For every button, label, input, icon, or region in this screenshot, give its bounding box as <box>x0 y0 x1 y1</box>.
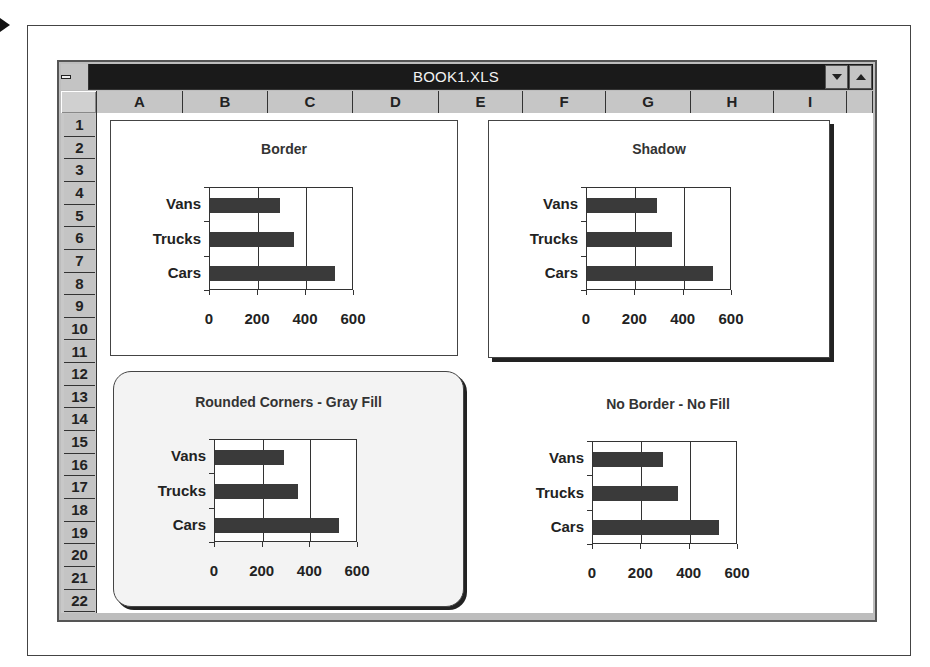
workbook-window: BOOK1.XLS ABCDEFGHI 12345678910111213141… <box>57 60 877 622</box>
bar-trucks <box>215 484 298 499</box>
column-header-c[interactable]: C <box>268 91 353 113</box>
category-label: Trucks <box>131 230 201 247</box>
x-tick-label: 400 <box>289 562 329 579</box>
bar-cars <box>215 518 339 533</box>
category-label: Trucks <box>514 484 584 501</box>
row-header-19[interactable]: 19 <box>64 522 95 545</box>
x-tick-label: 600 <box>333 310 373 327</box>
select-all-button[interactable] <box>61 91 97 113</box>
row-header-11[interactable]: 11 <box>64 341 95 364</box>
column-header-b[interactable]: B <box>183 91 268 113</box>
chart-title: No Border - No Fill <box>488 396 848 412</box>
x-tick-label: 600 <box>717 564 757 581</box>
x-tick <box>640 544 641 549</box>
row-header-3[interactable]: 3 <box>64 159 95 182</box>
bar-vans <box>587 198 657 213</box>
bar-trucks <box>210 232 294 247</box>
x-tick <box>214 542 215 547</box>
plot-area <box>586 187 731 290</box>
row-header-9[interactable]: 9 <box>64 295 95 318</box>
window-title: BOOK1.XLS <box>89 64 823 90</box>
chart-title: Border <box>111 141 457 157</box>
x-tick-label: 600 <box>711 310 751 327</box>
x-tick-label: 0 <box>572 564 612 581</box>
row-header-4[interactable]: 4 <box>64 182 95 205</box>
chart-title: Shadow <box>489 141 829 157</box>
x-tick <box>634 290 635 295</box>
rounded-gray-fill-chart[interactable]: Rounded Corners - Gray FillVansTrucksCar… <box>113 371 464 607</box>
bar-vans <box>593 452 663 467</box>
x-tick-label: 200 <box>620 564 660 581</box>
row-header-20[interactable]: 20 <box>64 544 95 567</box>
x-tick-label: 0 <box>194 562 234 579</box>
pointer-arrow-icon <box>0 18 10 32</box>
column-header-f[interactable]: F <box>523 91 606 113</box>
row-header-16[interactable]: 16 <box>64 454 95 477</box>
row-header-14[interactable]: 14 <box>64 408 95 431</box>
category-label: Trucks <box>136 482 206 499</box>
category-label: Cars <box>131 264 201 281</box>
row-header-7[interactable]: 7 <box>64 250 95 273</box>
shadow-chart[interactable]: ShadowVansTrucksCars0200400600 <box>488 120 830 358</box>
x-tick <box>357 542 358 547</box>
bar-cars <box>593 520 719 535</box>
x-tick <box>683 290 684 295</box>
maximize-button[interactable] <box>849 65 872 89</box>
category-label: Cars <box>514 518 584 535</box>
system-menu-button[interactable] <box>61 64 89 90</box>
column-header-a[interactable]: A <box>97 91 183 113</box>
x-tick <box>689 544 690 549</box>
x-tick <box>209 290 210 295</box>
x-tick-label: 600 <box>337 562 377 579</box>
category-label: Vans <box>514 449 584 466</box>
category-label: Vans <box>131 195 201 212</box>
column-header-d[interactable]: D <box>353 91 439 113</box>
row-header-17[interactable]: 17 <box>64 476 95 499</box>
x-tick-label: 0 <box>566 310 606 327</box>
cell-area[interactable]: BorderVansTrucksCars0200400600ShadowVans… <box>98 114 873 613</box>
x-tick <box>309 542 310 547</box>
plot-area <box>214 439 357 542</box>
column-header-e[interactable]: E <box>439 91 523 113</box>
column-header-partial[interactable] <box>847 91 873 113</box>
border-chart[interactable]: BorderVansTrucksCars0200400600 <box>110 120 458 356</box>
bar-cars <box>210 266 335 281</box>
bar-vans <box>215 450 284 465</box>
x-tick <box>262 542 263 547</box>
x-tick <box>737 544 738 549</box>
row-header-21[interactable]: 21 <box>64 567 95 590</box>
column-header-i[interactable]: I <box>774 91 847 113</box>
row-header-6[interactable]: 6 <box>64 227 95 250</box>
column-headers: ABCDEFGHI <box>61 91 873 113</box>
column-header-h[interactable]: H <box>691 91 774 113</box>
row-headers: 12345678910111213141516171819202122 <box>61 113 97 613</box>
minimize-button[interactable] <box>825 65 848 89</box>
row-header-12[interactable]: 12 <box>64 363 95 386</box>
row-header-18[interactable]: 18 <box>64 499 95 522</box>
worksheet-grid: ABCDEFGHI 123456789101112131415161718192… <box>61 91 873 613</box>
row-header-1[interactable]: 1 <box>64 114 95 137</box>
x-tick <box>731 290 732 295</box>
row-header-13[interactable]: 13 <box>64 386 95 409</box>
x-tick-label: 200 <box>614 310 654 327</box>
row-header-5[interactable]: 5 <box>64 205 95 228</box>
title-bar[interactable]: BOOK1.XLS <box>61 64 873 90</box>
x-tick-label: 400 <box>669 564 709 581</box>
row-header-22[interactable]: 22 <box>64 590 95 613</box>
row-header-15[interactable]: 15 <box>64 431 95 454</box>
system-menu-icon <box>61 75 71 79</box>
row-header-10[interactable]: 10 <box>64 318 95 341</box>
x-tick-label: 200 <box>242 562 282 579</box>
x-tick <box>586 290 587 295</box>
no-border-no-fill-chart[interactable]: No Border - No FillVansTrucksCars0200400… <box>488 380 848 600</box>
plot-area <box>209 187 353 290</box>
plot-area <box>592 441 737 544</box>
bar-cars <box>587 266 713 281</box>
x-tick <box>305 290 306 295</box>
row-header-8[interactable]: 8 <box>64 273 95 296</box>
row-header-2[interactable]: 2 <box>64 137 95 160</box>
bar-vans <box>210 198 280 213</box>
chart-title: Rounded Corners - Gray Fill <box>114 394 463 410</box>
maximize-icon <box>856 74 866 80</box>
column-header-g[interactable]: G <box>606 91 691 113</box>
